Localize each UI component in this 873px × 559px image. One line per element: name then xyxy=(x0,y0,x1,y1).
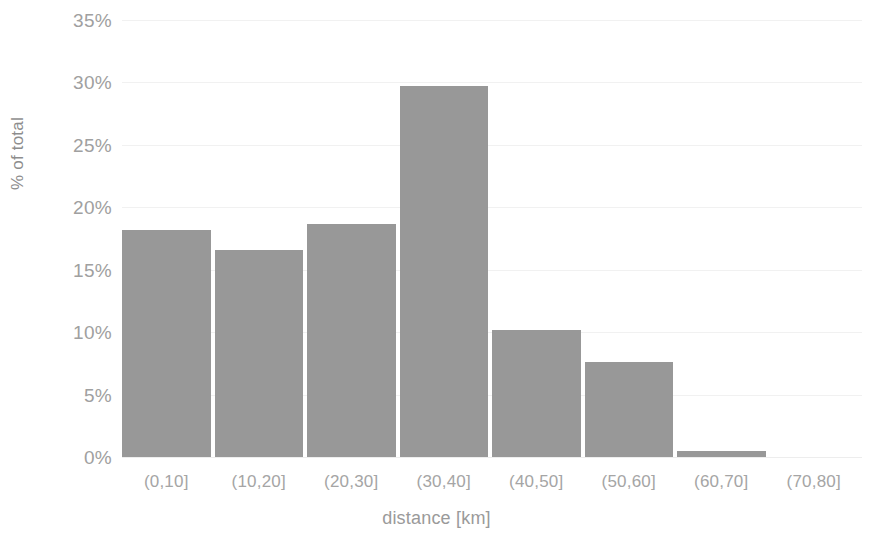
y-axis-tick-label: 0% xyxy=(44,448,112,467)
bars-group xyxy=(122,20,862,457)
y-axis-tick-label: 5% xyxy=(44,385,112,404)
plot-area xyxy=(122,20,862,457)
y-axis-tick-label: 10% xyxy=(44,323,112,342)
x-axis-title: distance [km] xyxy=(0,508,873,529)
x-axis-tick-label: (70,80] xyxy=(770,472,859,492)
y-axis-tick-labels: 0%5%10%15%20%25%30%35% xyxy=(0,0,112,559)
gridline xyxy=(122,457,862,458)
y-axis-tick-label: 15% xyxy=(44,260,112,279)
x-axis-tick-label: (40,50] xyxy=(492,472,581,492)
bar[interactable] xyxy=(122,230,211,457)
bar-slot xyxy=(585,20,674,457)
bar-slot xyxy=(400,20,489,457)
x-axis-tick-labels: (0,10](10,20](20,30](30,40](40,50](50,60… xyxy=(122,472,862,502)
bar[interactable] xyxy=(492,330,581,457)
bar-slot xyxy=(215,20,304,457)
x-axis-tick-label: (60,70] xyxy=(677,472,766,492)
bar-chart: % of total 0%5%10%15%20%25%30%35% (0,10]… xyxy=(0,0,873,559)
bar[interactable] xyxy=(400,86,489,457)
bar[interactable] xyxy=(307,224,396,457)
x-axis-tick-label: (20,30] xyxy=(307,472,396,492)
bar[interactable] xyxy=(677,451,766,457)
bar-slot xyxy=(677,20,766,457)
y-axis-tick-label: 30% xyxy=(44,73,112,92)
bar-slot xyxy=(122,20,211,457)
bar[interactable] xyxy=(215,250,304,457)
bar-slot xyxy=(307,20,396,457)
bar-slot xyxy=(492,20,581,457)
x-axis-tick-label: (50,60] xyxy=(585,472,674,492)
x-axis-tick-label: (10,20] xyxy=(215,472,304,492)
bar-slot xyxy=(770,20,859,457)
x-axis-tick-label: (30,40] xyxy=(400,472,489,492)
bar[interactable] xyxy=(585,362,674,457)
y-axis-tick-label: 35% xyxy=(44,11,112,30)
x-axis-tick-label: (0,10] xyxy=(122,472,211,492)
y-axis-tick-label: 20% xyxy=(44,198,112,217)
y-axis-tick-label: 25% xyxy=(44,135,112,154)
